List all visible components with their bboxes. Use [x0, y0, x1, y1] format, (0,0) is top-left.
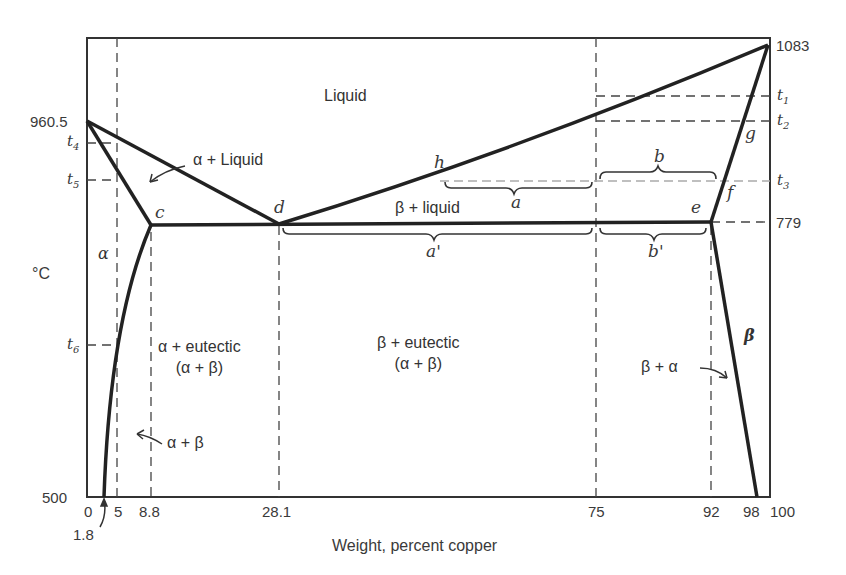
- region-alpha-liquid: α + Liquid: [193, 150, 263, 171]
- arrow-alpha-liquid: [150, 166, 185, 182]
- point-label-f: f: [727, 184, 733, 201]
- x-tick-8-8: 8.8: [139, 504, 160, 519]
- x-tick-75: 75: [588, 504, 605, 519]
- y-tick-500: 500: [42, 490, 67, 505]
- point-label-c: c: [155, 204, 165, 221]
- t4-marker: t4: [67, 134, 79, 152]
- brace-a-prime: [283, 228, 592, 240]
- arrow-alpha-beta: [137, 434, 162, 444]
- phase-diagram-canvas: [0, 0, 846, 575]
- point-label-g: g: [745, 125, 756, 142]
- solvus-alpha: [104, 225, 151, 497]
- brace-b-prime: [600, 228, 706, 240]
- x-axis-title: Weight, percent copper: [332, 538, 497, 554]
- phase-boundaries: [87, 45, 768, 497]
- lever-label-b-prime: b': [648, 243, 664, 260]
- solvus-beta: [711, 222, 757, 497]
- lever-label-a-prime: a': [426, 243, 441, 260]
- y-tick-779: 779: [776, 215, 801, 230]
- region-beta-eutectic-line2: (α + β): [377, 354, 460, 375]
- x-tick-100: 100: [770, 504, 795, 519]
- x-tick-28-1: 28.1: [262, 504, 291, 519]
- region-beta-eutectic: β + eutectic (α + β): [377, 333, 460, 375]
- region-beta: β: [744, 326, 755, 347]
- region-alpha-eutectic-line1: α + eutectic: [158, 337, 241, 358]
- x-tick-1-8: 1.8: [73, 527, 94, 542]
- point-label-e: e: [691, 199, 701, 216]
- arrow-beta-alpha: [700, 368, 727, 378]
- x-tick-98: 98: [743, 504, 760, 519]
- t3-marker: t3: [777, 173, 789, 191]
- t1-marker: t1: [777, 88, 789, 106]
- eutectic-line: [151, 222, 711, 225]
- region-beta-liquid: β + liquid: [395, 198, 460, 219]
- region-alpha: α: [98, 244, 109, 265]
- region-alpha-eutectic: α + eutectic (α + β): [158, 337, 241, 379]
- brace-b: [600, 166, 716, 179]
- point-label-d: d: [274, 199, 285, 216]
- t6-marker: t6: [67, 337, 79, 355]
- region-liquid: Liquid: [324, 86, 367, 107]
- region-alpha-beta: α + β: [167, 433, 204, 454]
- dashed-guides: [87, 38, 770, 497]
- region-alpha-eutectic-line2: (α + β): [158, 358, 241, 379]
- plot-frame: [87, 38, 770, 497]
- y-tick-1083: 1083: [776, 38, 809, 53]
- t2-marker: t2: [777, 113, 789, 131]
- x-tick-5: 5: [114, 504, 122, 519]
- lever-label-a: a: [511, 194, 521, 211]
- t5-marker: t5: [67, 172, 79, 190]
- y-tick-960-5: 960.5: [30, 114, 68, 129]
- liquidus-ag: [87, 121, 279, 224]
- solidus-cu: [711, 45, 768, 222]
- region-beta-alpha: β + α: [641, 357, 678, 378]
- region-beta-eutectic-line1: β + eutectic: [377, 333, 460, 354]
- lever-label-b: b: [654, 148, 665, 165]
- x-tick-92: 92: [703, 504, 720, 519]
- x-tick-0: 0: [84, 504, 92, 519]
- point-label-h: h: [434, 154, 445, 171]
- y-axis-unit: °C: [32, 266, 50, 282]
